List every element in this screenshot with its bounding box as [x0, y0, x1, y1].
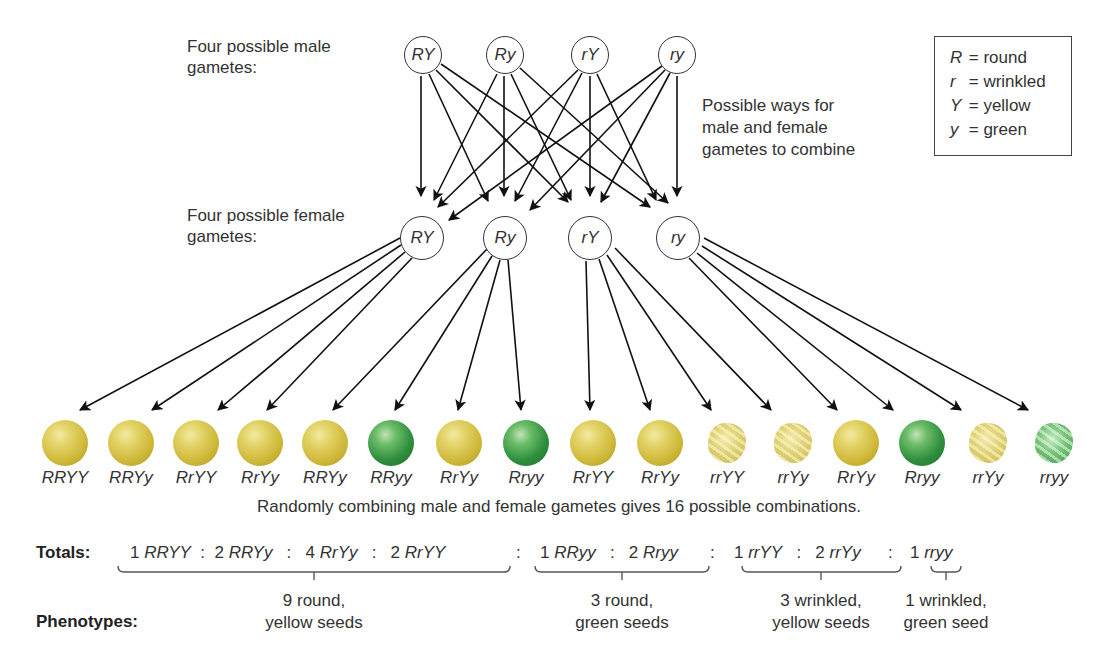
phenotype-line2: yellow seeds — [254, 612, 374, 634]
phenotype-line2: green seed — [886, 612, 1006, 634]
phenotype-line1: 9 round, — [254, 590, 374, 612]
phenotype-wrinkled-green: 1 wrinkled, green seed — [886, 590, 1006, 634]
phenotype-line1: 3 wrinkled, — [756, 590, 886, 612]
phenotype-wrinkled-yellow: 3 wrinkled, yellow seeds — [756, 590, 886, 634]
brace-group-2 — [535, 566, 709, 572]
brace-group-1 — [118, 566, 510, 572]
phenotype-line1: 1 wrinkled, — [886, 590, 1006, 612]
phenotype-round-green: 3 round, green seeds — [562, 590, 682, 634]
phenotypes-label: Phenotypes: — [36, 612, 138, 632]
phenotype-round-yellow: 9 round, yellow seeds — [254, 590, 374, 634]
brace-group-4 — [931, 566, 961, 572]
brace-group-3 — [742, 566, 901, 572]
phenotype-line2: green seeds — [562, 612, 682, 634]
grouping-braces — [0, 0, 1118, 672]
phenotype-line1: 3 round, — [562, 590, 682, 612]
phenotype-line2: yellow seeds — [756, 612, 886, 634]
